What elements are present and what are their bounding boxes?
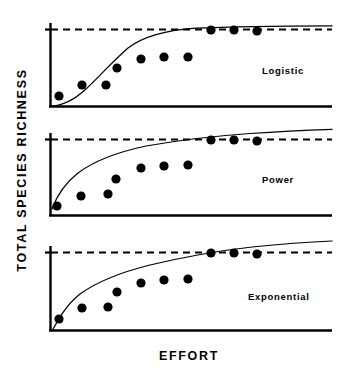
panel-exponential: Exponential	[45, 241, 332, 331]
panel-power: Power	[45, 129, 332, 216]
panel-power-points	[52, 135, 261, 210]
species-accumulation-figure: Logistic Power	[0, 0, 342, 372]
data-point	[111, 174, 120, 183]
panel-logistic: Logistic	[45, 23, 332, 107]
data-point	[183, 52, 192, 61]
data-point	[103, 189, 112, 198]
data-point	[136, 54, 145, 63]
panel-exponential-points	[54, 248, 261, 323]
data-point	[229, 25, 238, 34]
data-point	[77, 303, 86, 312]
data-point	[76, 191, 85, 200]
data-point	[103, 302, 112, 311]
data-point	[54, 314, 63, 323]
panel-label-logistic: Logistic	[262, 65, 304, 76]
panel-power-fit-curve	[52, 129, 332, 209]
panel-label-exponential: Exponential	[248, 291, 310, 302]
data-point	[52, 201, 61, 210]
data-point	[206, 135, 215, 144]
data-point	[101, 80, 110, 89]
data-point	[252, 26, 261, 35]
plot-canvas: Logistic Power	[0, 0, 342, 372]
data-point	[229, 248, 238, 257]
data-point	[112, 287, 121, 296]
data-point	[206, 25, 215, 34]
data-point	[54, 91, 63, 100]
data-point	[136, 278, 145, 287]
data-point	[159, 161, 168, 170]
data-point	[77, 80, 86, 89]
data-point	[183, 274, 192, 283]
data-point	[206, 248, 215, 257]
data-point	[183, 160, 192, 169]
data-point	[229, 135, 238, 144]
panel-exponential-fit-curve	[52, 241, 332, 331]
data-point	[112, 63, 121, 72]
data-point	[159, 52, 168, 61]
data-point	[252, 136, 261, 145]
data-point	[136, 163, 145, 172]
panel-label-power: Power	[262, 174, 294, 185]
data-point	[252, 249, 261, 258]
data-point	[159, 275, 168, 284]
